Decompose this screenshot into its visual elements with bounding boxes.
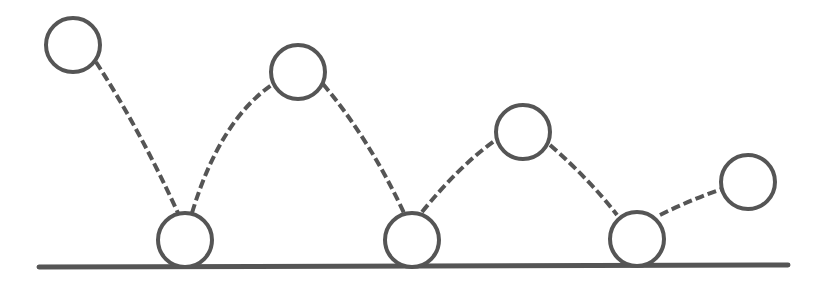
ball-3-circle — [271, 45, 325, 99]
ball-2-circle — [158, 213, 212, 267]
ball-6-circle — [610, 212, 664, 266]
path-5-6 — [550, 145, 617, 215]
ball-1-circle — [46, 18, 100, 72]
path-3-4 — [323, 84, 404, 213]
path-6-7 — [660, 189, 722, 215]
path-1-2 — [96, 62, 178, 213]
path-2-3 — [192, 84, 273, 213]
bouncing-ball-diagram — [0, 0, 825, 281]
ball-4-circle — [385, 213, 439, 267]
ball-5-circle — [496, 105, 550, 159]
balls — [46, 18, 775, 267]
path-4-5 — [422, 139, 497, 212]
ball-7-circle — [721, 155, 775, 209]
trajectory-paths — [96, 62, 722, 215]
